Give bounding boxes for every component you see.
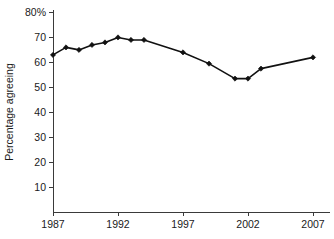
x-tick-label: 1987 [41,218,65,230]
data-point-marker [89,42,94,47]
data-point-marker [115,35,120,40]
y-tick-label: 40 [34,106,46,118]
y-tick-label: 60 [34,56,46,68]
data-point-marker [310,55,315,60]
x-tick-label: 1992 [106,218,130,230]
x-tick-label: 2007 [301,218,325,230]
y-tick-label: 80% [25,6,46,18]
line-chart: 1020304050607080%19871992199720022007Per… [0,0,334,239]
chart-plot-area: 1020304050607080%19871992199720022007Per… [0,0,334,239]
x-tick-label: 2002 [236,218,260,230]
y-tick-label: 70 [34,31,46,43]
x-tick-label: 1997 [171,218,195,230]
y-tick-label: 20 [34,156,46,168]
data-point-marker [76,47,81,52]
data-point-marker [180,50,185,55]
y-tick-label: 30 [34,131,46,143]
data-point-marker [141,37,146,42]
y-tick-label: 50 [34,81,46,93]
y-axis-title: Percentage agreeing [3,63,15,161]
data-point-marker [102,40,107,45]
y-tick-label: 10 [34,181,46,193]
data-point-marker [128,37,133,42]
